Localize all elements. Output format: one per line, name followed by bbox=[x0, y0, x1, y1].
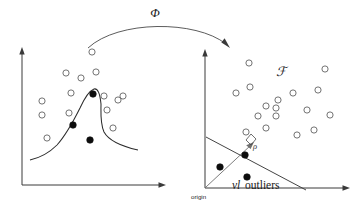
input-space-x-axis-arrowhead bbox=[159, 182, 167, 187]
data-point-open bbox=[290, 90, 296, 96]
input-space-panel bbox=[19, 47, 166, 188]
outliers-text-label: outliers bbox=[245, 179, 280, 191]
input-space-y-axis-arrowhead bbox=[19, 47, 24, 55]
feature-space-label: ℱ bbox=[276, 64, 289, 79]
input-space-outlier-points bbox=[70, 91, 97, 144]
data-point-open bbox=[311, 127, 317, 133]
data-point-open bbox=[294, 132, 300, 138]
phi-arc-arrowhead bbox=[221, 38, 230, 48]
data-point-filled bbox=[90, 91, 97, 98]
data-point-open bbox=[63, 70, 69, 76]
density-estimate-curve bbox=[30, 89, 138, 160]
data-point-open bbox=[315, 87, 321, 93]
feature-space-outlier-points bbox=[217, 152, 251, 181]
data-point-open bbox=[273, 105, 279, 111]
data-point-open bbox=[263, 103, 269, 109]
data-point-open bbox=[246, 60, 252, 66]
outliers-nu-label: νl bbox=[232, 179, 240, 191]
data-point-open bbox=[273, 113, 279, 119]
onesvm-diagram: Φ ρ bbox=[0, 0, 359, 209]
outliers-annotation: νl outliers bbox=[232, 179, 280, 191]
data-point-open bbox=[263, 125, 269, 131]
data-point-filled bbox=[217, 164, 224, 171]
data-point-open bbox=[327, 112, 333, 118]
data-point-open bbox=[275, 97, 281, 103]
data-point-open bbox=[110, 125, 116, 131]
data-point-open bbox=[233, 90, 239, 96]
data-point-open bbox=[68, 90, 74, 96]
phi-map-label: Φ bbox=[150, 6, 160, 20]
data-point-open bbox=[247, 84, 253, 90]
figure-root: Φ ρ bbox=[0, 0, 359, 209]
feature-space-y-axis-arrowhead bbox=[202, 49, 207, 57]
data-point-open bbox=[39, 98, 45, 104]
feature-space-panel: ρ bbox=[191, 49, 350, 200]
data-point-open bbox=[243, 129, 249, 135]
data-point-filled bbox=[242, 152, 249, 159]
phi-arc-path bbox=[88, 26, 226, 48]
phi-mapping-arc: Φ bbox=[88, 6, 230, 48]
data-point-filled bbox=[87, 137, 94, 144]
data-point-open bbox=[322, 66, 328, 72]
data-point-open bbox=[255, 113, 261, 119]
data-point-open bbox=[44, 135, 50, 141]
origin-label: origin bbox=[191, 193, 207, 200]
data-point-open bbox=[304, 107, 310, 113]
data-point-open bbox=[78, 75, 84, 81]
data-point-filled bbox=[70, 122, 77, 129]
data-point-open bbox=[66, 110, 72, 116]
input-space-inlier-points bbox=[39, 49, 126, 141]
feature-space-x-axis-arrowhead bbox=[343, 185, 351, 190]
data-point-open bbox=[89, 49, 95, 55]
data-point-open bbox=[104, 107, 110, 113]
rho-label: ρ bbox=[252, 141, 257, 151]
data-point-open bbox=[115, 97, 121, 103]
data-point-open bbox=[101, 93, 107, 99]
data-point-open bbox=[39, 112, 45, 118]
data-point-open bbox=[93, 69, 99, 75]
